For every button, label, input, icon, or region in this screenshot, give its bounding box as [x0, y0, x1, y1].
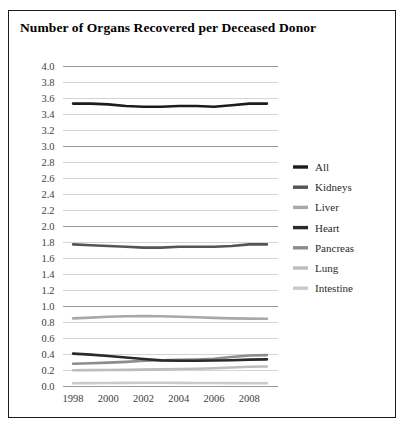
legend-label-pancreas: Pancreas — [315, 242, 354, 254]
y-tick-label: 3.4 — [41, 109, 55, 120]
x-tick-label: 2002 — [133, 393, 154, 404]
chart-figure: Number of Organs Recovered per Deceased … — [0, 0, 406, 428]
y-tick-label: 1.0 — [41, 301, 54, 312]
legend-label-intestine: Intestine — [315, 282, 353, 294]
line-chart-plot: 0.00.20.40.60.81.01.21.41.61.82.02.22.42… — [0, 0, 406, 428]
x-tick-label: 2008 — [239, 393, 260, 404]
y-tick-label: 2.4 — [41, 189, 55, 200]
y-tick-label: 1.4 — [41, 269, 55, 280]
y-tick-label: 1.2 — [41, 285, 54, 296]
y-tick-label: 4.0 — [41, 61, 54, 72]
legend-swatch-lung — [293, 266, 308, 269]
legend-label-all: All — [315, 161, 329, 173]
x-tick-label: 2006 — [204, 393, 225, 404]
y-axis-tick-labels: 0.00.20.40.60.81.01.21.41.61.82.02.22.42… — [41, 61, 55, 392]
x-axis-tick-labels: 199820002002200420062008 — [63, 393, 260, 404]
y-tick-label: 2.0 — [41, 221, 54, 232]
legend-swatch-pancreas — [293, 246, 308, 249]
series-line-all — [73, 104, 267, 107]
legend-label-lung: Lung — [315, 262, 339, 274]
data-series-group — [73, 104, 267, 384]
y-tick-label: 2.8 — [41, 157, 54, 168]
y-tick-label: 3.0 — [41, 141, 54, 152]
legend-swatch-liver — [293, 206, 308, 209]
chart-legend: AllKidneysLiverHeartPancreasLungIntestin… — [293, 161, 354, 294]
x-tick-label: 2004 — [168, 393, 190, 404]
y-tick-label: 2.2 — [41, 205, 54, 216]
legend-swatch-all — [293, 165, 308, 168]
legend-swatch-intestine — [293, 287, 308, 290]
y-tick-label: 2.6 — [41, 173, 54, 184]
series-line-kidneys — [73, 244, 267, 247]
y-tick-label: 3.8 — [41, 77, 54, 88]
y-tick-label: 3.2 — [41, 125, 54, 136]
gridline-group — [63, 67, 278, 387]
legend-swatch-heart — [293, 226, 308, 229]
y-tick-label: 0.0 — [41, 381, 54, 392]
y-tick-label: 0.8 — [41, 317, 54, 328]
y-tick-label: 1.8 — [41, 237, 54, 248]
y-tick-label: 0.6 — [41, 333, 54, 344]
legend-label-kidneys: Kidneys — [315, 181, 352, 193]
legend-swatch-kidneys — [293, 186, 308, 189]
x-tick-label: 2000 — [98, 393, 119, 404]
y-tick-label: 3.6 — [41, 93, 54, 104]
x-tick-label: 1998 — [63, 393, 84, 404]
series-line-lung — [73, 367, 267, 371]
legend-label-liver: Liver — [315, 201, 339, 213]
legend-label-heart: Heart — [315, 222, 339, 234]
series-line-liver — [73, 316, 267, 319]
y-tick-label: 0.4 — [41, 349, 55, 360]
y-tick-label: 1.6 — [41, 253, 54, 264]
y-tick-label: 0.2 — [41, 365, 54, 376]
